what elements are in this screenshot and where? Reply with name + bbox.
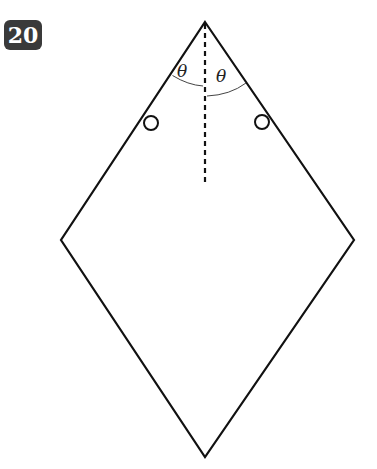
pivot-circle-right — [255, 115, 269, 129]
theta-label-right: θ — [216, 66, 226, 86]
angle-arc-right — [207, 83, 246, 96]
rhombus-outline — [61, 22, 354, 457]
theta-label-left: θ — [177, 61, 187, 81]
pivot-circle-left — [144, 116, 158, 130]
rhombus-diagram: θ θ — [0, 0, 377, 469]
